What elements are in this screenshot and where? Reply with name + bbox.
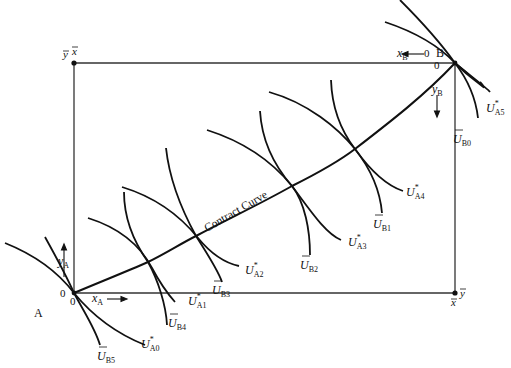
indifference-curve-a3 xyxy=(207,130,341,240)
total-y-label-top: y xyxy=(62,48,68,60)
svg-text:U*A1: U*A1 xyxy=(188,292,206,310)
svg-text:UB1: UB1 xyxy=(373,217,391,233)
corner-dot-top-left xyxy=(71,60,76,65)
svg-text:U*A0: U*A0 xyxy=(141,335,159,353)
indifference-curve-a2 xyxy=(122,187,239,266)
contract-curve-label: Contract Curve xyxy=(202,188,269,234)
label-u-b1: UB1 xyxy=(373,215,391,233)
indifference-curve-a5-tail xyxy=(455,63,490,92)
label-u-b2: UB2 xyxy=(300,256,318,274)
indifference-curve-b1 xyxy=(331,80,382,213)
svg-text:U*A4: U*A4 xyxy=(406,183,424,201)
svg-text:UB5: UB5 xyxy=(97,349,115,365)
svg-text:U*A5: U*A5 xyxy=(486,99,504,117)
label-u-a2: U*A2 xyxy=(245,261,263,279)
label-u-b5: UB5 xyxy=(97,347,115,365)
origin-a-zero-y: 0 xyxy=(60,287,66,299)
contract-curve xyxy=(74,63,455,293)
label-u-a5: U*A5 xyxy=(486,99,504,117)
indifference-curve-b4 xyxy=(124,192,167,325)
svg-text:UB0: UB0 xyxy=(453,132,471,148)
indifference-curve-b2 xyxy=(260,111,310,255)
origin-b-zero-x: 0 xyxy=(424,47,430,59)
label-u-a4: U*A4 xyxy=(406,183,424,201)
label-u-a1: U*A1 xyxy=(188,292,206,310)
arrow-y-b xyxy=(435,95,440,117)
x-b-label: xB xyxy=(396,46,408,62)
y-b-label: yB xyxy=(431,82,443,98)
origin-b-zero-y: 0 xyxy=(434,59,440,71)
total-x-label-bottom: x xyxy=(450,296,456,308)
svg-text:UB2: UB2 xyxy=(300,258,318,274)
svg-text:U*A3: U*A3 xyxy=(348,233,366,251)
svg-text:UB4: UB4 xyxy=(168,316,186,332)
label-u-b3: UB3 xyxy=(212,281,230,299)
label-u-a0: U*A0 xyxy=(141,335,159,353)
svg-text:U*A2: U*A2 xyxy=(245,261,263,279)
arrow-x-a xyxy=(107,297,127,302)
label-u-b0: UB0 xyxy=(453,130,471,148)
origin-a-label: A xyxy=(34,306,43,320)
indifference-curve-a4 xyxy=(269,92,403,191)
edgeworth-box-frame xyxy=(74,63,455,293)
svg-text:UB3: UB3 xyxy=(212,283,230,299)
corner-dot-bottom-right xyxy=(452,290,457,295)
edgeworth-box-diagram: A 0 0 xA yA 0 B 0 xB yB y x x y Contract… xyxy=(0,0,511,368)
y-a-label: yA xyxy=(57,254,69,270)
origin-b-label: B xyxy=(436,46,444,60)
origin-a-zero-x: 0 xyxy=(70,295,76,307)
label-u-b4: UB4 xyxy=(168,314,186,332)
label-u-a3: U*A3 xyxy=(348,233,366,251)
